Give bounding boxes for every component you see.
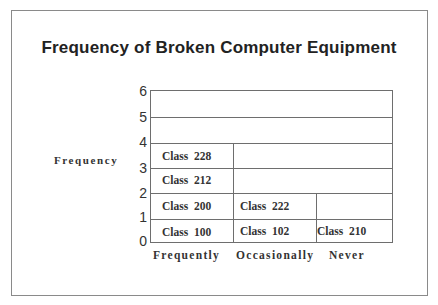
y-tick-3: 3 (133, 161, 147, 175)
cell-occasionally-2: Class 222 (240, 200, 289, 212)
cell-never-1: Class 210 (317, 225, 366, 237)
x-category-occasionally: Occasionally (236, 249, 314, 261)
gridline-1 (150, 219, 393, 220)
cell-frequently-2: Class 200 (162, 200, 211, 212)
x-category-frequently: Frequently (153, 249, 220, 261)
cell-frequently-3: Class 212 (162, 174, 211, 186)
y-tick-4: 4 (133, 135, 147, 149)
cell-occasionally-1: Class 102 (240, 225, 289, 237)
gridline-4 (150, 143, 393, 144)
y-tick-0: 0 (133, 234, 147, 248)
gridline-2 (150, 193, 393, 194)
plot-area (150, 90, 393, 243)
gridline-3 (150, 168, 393, 169)
y-tick-5: 5 (133, 110, 147, 124)
y-axis-label: Frequency (54, 154, 118, 166)
cell-frequently-4: Class 228 (162, 150, 211, 162)
cell-frequently-1: Class 100 (162, 226, 211, 238)
gridline-5 (150, 117, 393, 118)
y-tick-6: 6 (133, 84, 147, 98)
x-category-never: Never (329, 249, 365, 261)
y-tick-2: 2 (133, 186, 147, 200)
column-divider-1 (233, 143, 234, 243)
chart-title: Frequency of Broken Computer Equipment (0, 38, 438, 58)
y-tick-1: 1 (133, 210, 147, 224)
